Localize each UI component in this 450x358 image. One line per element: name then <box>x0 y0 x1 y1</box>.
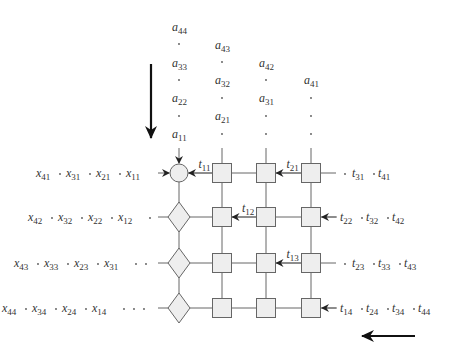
ellipsis-dot <box>67 263 69 265</box>
t-label-41: t41 <box>378 166 390 182</box>
square-cell-icon <box>213 299 232 318</box>
x-input-sequence: x41x31x21x11 <box>35 166 140 182</box>
t-label-44: t44 <box>418 301 431 317</box>
ellipsis-dot <box>178 115 180 117</box>
ellipsis-dot <box>387 217 389 219</box>
ellipsis-dot <box>149 217 151 219</box>
square-cell-icon <box>213 208 232 227</box>
x-label-42: x42 <box>27 210 42 226</box>
x-label-12: x12 <box>117 210 132 226</box>
internal-t11: t11 <box>199 157 211 173</box>
t-label-34: t34 <box>392 301 405 317</box>
internal-t13: t13 <box>287 247 300 263</box>
a-label-32: a32 <box>215 73 230 89</box>
square-cell-icon <box>257 254 276 273</box>
ellipsis-dot <box>373 263 375 265</box>
a-label-31: a31 <box>259 91 274 107</box>
square-cell-icon <box>213 164 232 183</box>
x-label-31: x31 <box>103 256 118 272</box>
t-input-sequence: t14t24t34t44 <box>322 301 431 317</box>
t-label-31: t31 <box>352 166 364 182</box>
ellipsis-dot <box>178 79 180 81</box>
ellipsis-dot <box>81 217 83 219</box>
ellipsis-dot <box>265 133 267 135</box>
a-label-22: a22 <box>172 91 187 107</box>
square-cell-icon <box>302 164 321 183</box>
ellipsis-dot <box>178 43 180 45</box>
flow-arrows <box>151 64 415 336</box>
x-label-24: x24 <box>61 301 77 317</box>
t-input-sequence: t22t32t42 <box>322 210 404 226</box>
ellipsis-dot <box>344 263 346 265</box>
ellipsis-dot <box>361 217 363 219</box>
diamond-cell-icon <box>168 202 190 232</box>
t-input-sequence: t31t41 <box>344 166 390 182</box>
diamond-cell-icon <box>168 293 190 323</box>
t-label-42: t42 <box>392 210 404 226</box>
ellipsis-dot <box>55 308 57 310</box>
t-label-14: t14 <box>340 301 353 317</box>
ellipsis-dot <box>387 308 389 310</box>
x-label-11: x11 <box>125 166 140 182</box>
x-label-21: x21 <box>95 166 110 182</box>
ellipsis-dot <box>37 263 39 265</box>
a-label-44: a44 <box>172 20 188 36</box>
x-label-43: x43 <box>13 256 29 272</box>
t-input-sequence: t23t33t43 <box>344 256 417 272</box>
ellipsis-dot <box>59 173 61 175</box>
ellipsis-dot <box>221 97 223 99</box>
a-label-33: a33 <box>172 56 188 72</box>
t-label-33: t33 <box>378 256 391 272</box>
t-label-32: t32 <box>366 210 378 226</box>
x-label-44: x44 <box>1 301 17 317</box>
ellipsis-dot <box>25 308 27 310</box>
square-cell-icon <box>213 254 232 273</box>
systolic-array-diagram: a44a33a22a11a43a32a21a42a31a41x41x31x21x… <box>0 0 450 358</box>
x-input-sequence: x42x32x22x12 <box>27 210 151 226</box>
ellipsis-dot <box>89 173 91 175</box>
ellipsis-dot <box>310 115 312 117</box>
ellipsis-dot <box>310 133 312 135</box>
ellipsis-dot <box>119 173 121 175</box>
ellipsis-dot <box>135 263 137 265</box>
ellipsis-dot <box>133 308 135 310</box>
ellipsis-dot <box>399 263 401 265</box>
t-label-22: t22 <box>340 210 352 226</box>
x-label-14: x14 <box>91 301 107 317</box>
x-input-sequence: x44x34x24x14 <box>1 301 145 317</box>
square-cell-icon <box>257 208 276 227</box>
a-label-11: a11 <box>172 127 187 143</box>
diamond-cell-icon <box>168 248 190 278</box>
ellipsis-dot <box>123 308 125 310</box>
t-label-24: t24 <box>366 301 379 317</box>
square-cell-icon <box>302 208 321 227</box>
x-input-sequence: x43x33x23x31 <box>13 256 147 272</box>
ellipsis-dot <box>143 308 145 310</box>
ellipsis-dot <box>111 217 113 219</box>
x-label-33: x33 <box>43 256 59 272</box>
a-label-42: a42 <box>259 56 274 72</box>
ellipsis-dot <box>85 308 87 310</box>
x-label-41: x41 <box>35 166 50 182</box>
ellipsis-dot <box>265 115 267 117</box>
a-label-43: a43 <box>215 38 231 54</box>
ellipsis-dot <box>221 61 223 63</box>
square-cell-icon <box>302 299 321 318</box>
internal-t12: t12 <box>242 201 254 217</box>
square-cell-icon <box>257 164 276 183</box>
ellipsis-dot <box>145 263 147 265</box>
ellipsis-dot <box>265 79 267 81</box>
ellipsis-dot <box>310 97 312 99</box>
square-cell-icon <box>257 299 276 318</box>
x-label-22: x22 <box>87 210 102 226</box>
internal-t21: t21 <box>287 157 299 173</box>
x-label-34: x34 <box>31 301 47 317</box>
ellipsis-dot <box>413 308 415 310</box>
square-cell-icon <box>302 254 321 273</box>
x-label-23: x23 <box>73 256 89 272</box>
a-label-21: a21 <box>215 109 230 125</box>
ellipsis-dot <box>51 217 53 219</box>
circle-cell-icon <box>170 164 188 182</box>
ellipsis-dot <box>344 173 346 175</box>
ellipsis-dot <box>221 133 223 135</box>
